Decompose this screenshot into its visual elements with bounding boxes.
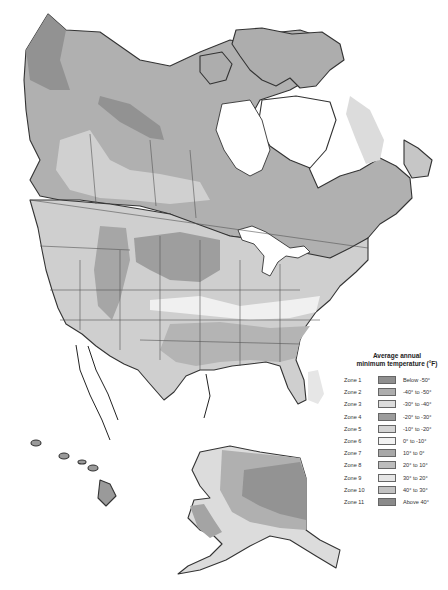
range-label: Above 40° [403, 499, 429, 505]
zone-swatch [378, 400, 396, 408]
legend-title-line2: minimum temperature (°F) [346, 360, 448, 368]
legend-row: Zone 2-40° to -50° [342, 386, 448, 398]
zone-label: Zone 3 [342, 401, 378, 407]
zone-swatch [378, 425, 396, 433]
range-label: -20° to -30° [403, 414, 431, 420]
zone-label: Zone 9 [342, 475, 378, 481]
legend-rows: Zone 1Below -50° Zone 2-40° to -50° Zone… [342, 374, 448, 508]
range-label: 20° to 10° [403, 462, 428, 468]
legend-row: Zone 930° to 20° [342, 472, 448, 484]
legend-row: Zone 11Above 40° [342, 496, 448, 508]
zone-label: Zone 7 [342, 450, 378, 456]
range-label: -30° to -40° [403, 401, 431, 407]
zone-label: Zone 5 [342, 426, 378, 432]
zone-label: Zone 6 [342, 438, 378, 444]
zone-label: Zone 11 [342, 499, 378, 505]
legend-row: Zone 4-20° to -30° [342, 411, 448, 423]
zone-swatch [378, 376, 396, 384]
hawaii [31, 440, 116, 506]
newfoundland [404, 140, 432, 178]
legend-title-line1: Average annual [346, 352, 448, 360]
legend-row: Zone 710° to 0° [342, 447, 448, 459]
range-label: Below -50° [403, 377, 430, 383]
range-label: 30° to 20° [403, 475, 428, 481]
legend-title: Average annual minimum temperature (°F) [346, 352, 448, 368]
zone-label: Zone 10 [342, 487, 378, 493]
range-label: 0° to -10° [403, 438, 426, 444]
legend-row: Zone 1040° to 30° [342, 484, 448, 496]
zone-label: Zone 1 [342, 377, 378, 383]
zone-8-south [160, 322, 310, 366]
zone-swatch [378, 498, 396, 506]
zone-swatch [378, 437, 396, 445]
baja-california [76, 345, 118, 440]
legend-row: Zone 60° to -10° [342, 435, 448, 447]
zone-swatch [378, 449, 396, 457]
mexico-coast [204, 374, 210, 418]
zone-swatch [378, 388, 396, 396]
zone-swatch [378, 474, 396, 482]
zone-swatch [378, 486, 396, 494]
zone-swatch [378, 413, 396, 421]
legend-row: Zone 1Below -50° [342, 374, 448, 386]
legend-row: Zone 3-30° to -40° [342, 398, 448, 410]
range-label: 40° to 30° [403, 487, 428, 493]
range-label: -40° to -50° [403, 389, 431, 395]
zone-label: Zone 8 [342, 462, 378, 468]
zone-3-labrador [346, 96, 384, 164]
legend-row: Zone 5-10° to -20° [342, 423, 448, 435]
zone-9-florida [308, 370, 324, 404]
zone-label: Zone 2 [342, 389, 378, 395]
zone-swatch [378, 461, 396, 469]
range-label: -10° to -20° [403, 426, 431, 432]
zone-label: Zone 4 [342, 414, 378, 420]
range-label: 10° to 0° [403, 450, 425, 456]
legend-row: Zone 820° to 10° [342, 459, 448, 471]
legend: Average annual minimum temperature (°F) … [342, 352, 448, 508]
